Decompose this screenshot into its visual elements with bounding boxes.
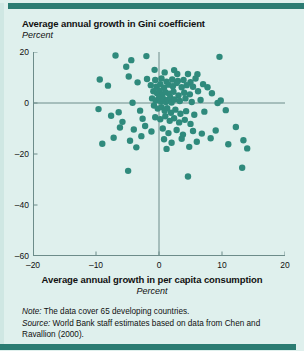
- scatter-point: [117, 124, 123, 130]
- y-tick-label: 20: [5, 47, 29, 57]
- scatter-point: [201, 108, 207, 114]
- scatter-point: [138, 133, 144, 139]
- scatter-point: [218, 97, 224, 103]
- scatter-point: [187, 121, 193, 127]
- x-tick-label: 20: [270, 260, 300, 270]
- scatter-point: [199, 130, 205, 136]
- scatter-point: [216, 54, 222, 60]
- x-axis-subtitle-unit: Percent: [0, 286, 304, 296]
- scatter-point: [195, 88, 201, 94]
- scatter-point: [239, 165, 245, 171]
- source-text: World Bank staff estimates based on data…: [22, 319, 260, 340]
- scatter-point: [95, 106, 101, 112]
- scatter-point: [163, 146, 169, 152]
- scatter-point: [125, 168, 131, 174]
- scatter-point: [182, 95, 188, 101]
- scatter-point: [182, 117, 188, 123]
- scatter-point: [183, 108, 189, 114]
- scatter-point: [191, 112, 197, 118]
- scatter-point: [185, 71, 191, 77]
- scatter-point: [126, 73, 132, 79]
- scatter-point: [152, 77, 158, 83]
- scatter-point: [207, 135, 213, 141]
- scatter-point: [190, 83, 196, 89]
- scatter-point: [128, 57, 134, 63]
- y-tick-label: 0: [5, 98, 29, 108]
- scatter-point: [186, 144, 192, 150]
- scatter-point: [178, 136, 184, 142]
- x-tick-label: –20: [18, 260, 48, 270]
- scatter-point: [108, 113, 114, 119]
- scatter-point: [174, 71, 180, 77]
- scatter-point: [190, 128, 196, 134]
- data-points-layer: [95, 52, 250, 179]
- scatter-point: [171, 115, 177, 121]
- scatter-point: [99, 141, 105, 147]
- note-line: Note: The data cover 65 developing count…: [22, 306, 288, 318]
- scatter-point: [185, 173, 191, 179]
- note-label: Note:: [22, 307, 42, 316]
- scatter-point: [161, 69, 167, 75]
- left-edge-strip: [0, 3, 4, 350]
- scatter-point: [123, 64, 129, 70]
- scatter-point: [177, 98, 183, 104]
- scatter-point: [184, 82, 190, 88]
- scatter-point: [119, 119, 125, 125]
- bottom-rule: [0, 344, 296, 350]
- scatter-point: [144, 76, 150, 82]
- scatter-point: [177, 111, 183, 117]
- scatter-point: [97, 76, 103, 82]
- chart-title: Average annual growth in Gini coefficien…: [22, 18, 205, 29]
- scatter-point: [240, 137, 246, 143]
- scatter-plot-svg: [33, 52, 285, 256]
- scatter-point: [204, 84, 210, 90]
- scatter-point: [151, 67, 157, 73]
- scatter-point: [105, 82, 111, 88]
- scatter-point: [142, 123, 148, 129]
- note-text: The data cover 65 developing countries.: [42, 307, 190, 316]
- scatter-point: [165, 130, 171, 136]
- scatter-point: [131, 126, 137, 132]
- scatter-point: [129, 100, 135, 106]
- y-tick-label: –20: [5, 149, 29, 159]
- scatter-point: [225, 141, 231, 147]
- y-tick-label: –40: [5, 200, 29, 210]
- x-tick-label: 0: [144, 260, 174, 270]
- plot-area: [33, 52, 285, 256]
- scatter-point: [223, 107, 229, 113]
- scatter-point: [173, 127, 179, 133]
- scatter-point: [244, 145, 250, 151]
- scatter-point: [168, 140, 174, 146]
- scatter-point: [110, 134, 116, 140]
- scatter-point: [209, 90, 215, 96]
- figure-notes: Note: The data cover 65 developing count…: [22, 306, 288, 341]
- scatter-point: [112, 52, 118, 58]
- scatter-point: [233, 124, 239, 130]
- scatter-point: [161, 136, 167, 142]
- scatter-point: [173, 80, 179, 86]
- scatter-point: [139, 116, 145, 122]
- figure-panel: Average annual growth in Gini coefficien…: [0, 0, 304, 351]
- scatter-point: [115, 109, 121, 115]
- scatter-point: [181, 90, 187, 96]
- scatter-point: [137, 107, 143, 113]
- scatter-point: [148, 82, 154, 88]
- scatter-point: [160, 125, 166, 131]
- scatter-point: [134, 79, 140, 85]
- scatter-point: [143, 53, 149, 59]
- source-line: Source: World Bank staff estimates based…: [22, 318, 288, 341]
- x-tick-label: –10: [81, 260, 111, 270]
- scatter-point: [133, 144, 139, 150]
- scatter-point: [148, 128, 154, 134]
- scatter-point: [176, 119, 182, 125]
- top-rule: [8, 3, 304, 9]
- x-tick-label: 10: [207, 260, 237, 270]
- scatter-point: [189, 99, 195, 105]
- scatter-point: [192, 75, 198, 81]
- scatter-point: [197, 97, 203, 103]
- chart-subtitle-unit: Percent: [22, 30, 53, 40]
- scatter-point: [172, 106, 178, 112]
- scatter-point: [127, 138, 133, 144]
- scatter-point: [213, 127, 219, 133]
- x-axis-title: Average annual growth in per capita cons…: [0, 274, 304, 285]
